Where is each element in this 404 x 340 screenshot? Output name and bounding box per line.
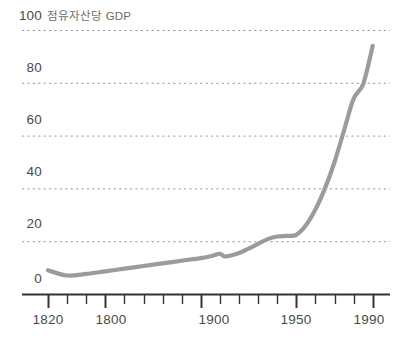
gdp-data-line — [48, 46, 373, 276]
y-tick-label-40: 40 — [0, 165, 42, 179]
line-chart-graphic — [0, 0, 404, 340]
y-tick-label-60: 60 — [0, 113, 42, 127]
x-tick-label-1900: 1900 — [199, 313, 230, 327]
x-tick-label-1800: 1800 — [96, 313, 127, 327]
chart-container: 100 80 60 40 20 0 점유자산당 GDP 1820 1800 19… — [0, 0, 404, 340]
x-tick-label-1820: 1820 — [33, 313, 64, 327]
x-axis-ticks-group — [49, 295, 374, 308]
x-tick-label-1950: 1950 — [281, 313, 312, 327]
y-tick-label-80: 80 — [0, 61, 42, 75]
y-tick-label-20: 20 — [0, 217, 42, 231]
y-tick-label-100: 100 — [0, 9, 42, 23]
x-tick-label-1990: 1990 — [354, 313, 385, 327]
chart-title: 점유자산당 GDP — [47, 11, 131, 23]
gridlines-group — [22, 31, 390, 242]
y-tick-label-0: 0 — [0, 272, 42, 286]
